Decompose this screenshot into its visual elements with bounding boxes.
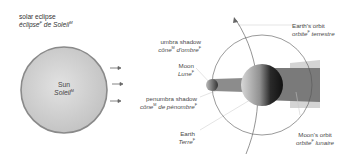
gender-mark: F [193, 138, 195, 142]
orbit-arrow-icon [233, 17, 238, 23]
sunlight-arrows [110, 67, 123, 103]
umbra-fr1: cône [158, 46, 171, 53]
earth-label: Earth TerreF [178, 130, 195, 145]
umbra-en: umbra shadow [158, 38, 201, 46]
earth-orbit-fr1: orbite [292, 30, 307, 37]
gender-mark: M [69, 20, 72, 25]
gender-mark: F [199, 46, 201, 50]
moon-orbit-label: Moon's orbit orbiteF lunaire [285, 131, 345, 146]
umbra-fr2: d'ombre [175, 46, 199, 53]
title-en: solar eclipse [19, 13, 72, 21]
earth-orbit-en: Earth's orbit [292, 22, 335, 30]
penumbra-label: penumbra shadow côneM de pénombreF [140, 95, 197, 110]
moon-fr: Lune [178, 70, 192, 77]
gender-mark: M [71, 89, 74, 93]
earth-orbit-fr2: terrestre [310, 30, 335, 37]
umbra-label: umbra shadow côneM d'ombreF [158, 38, 201, 53]
penumbra-fr1: cône [140, 103, 153, 110]
gender-mark: F [192, 70, 194, 74]
sun-fr: Soleil [54, 89, 71, 96]
penumbra-en: penumbra shadow [140, 95, 197, 103]
diagram-title: solar eclipse éclipseF de SoleilM [19, 13, 72, 29]
penumbra-fr2: de pénombre [156, 103, 194, 110]
moon-body [206, 79, 218, 91]
earth-fr: Terre [178, 138, 192, 145]
sun-label: Sun SoleilM [50, 81, 78, 97]
earth-body [241, 64, 283, 106]
title-fr: éclipse [19, 21, 40, 28]
gender-mark: F [195, 103, 197, 107]
earth-en: Earth [178, 130, 195, 138]
moon-orbit-en: Moon's orbit [285, 131, 345, 139]
title-fr-rest: de Soleil [42, 21, 69, 28]
moon-orbit-fr2: lunaire [314, 139, 334, 146]
earth-orbit-label: Earth's orbit orbiteF terrestre [292, 22, 335, 37]
moon-en: Moon [178, 62, 194, 70]
moon-label: Moon LuneF [178, 62, 194, 77]
moon-orbit-fr1: orbite [296, 139, 311, 146]
